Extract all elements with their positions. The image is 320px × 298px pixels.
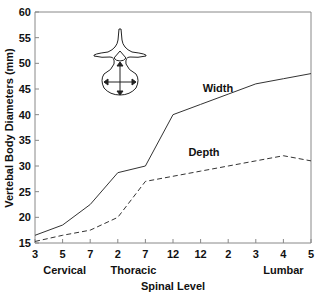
x-tick-label: 4 <box>280 248 287 260</box>
x-tick-label: 5 <box>60 248 66 260</box>
x-axis-title: Spinal Level <box>141 280 205 292</box>
x-tick-label: 12 <box>194 248 206 260</box>
x-tick-label: 3 <box>32 248 38 260</box>
depth-line <box>35 156 311 242</box>
region-label: Cervical <box>43 264 86 276</box>
plot-frame <box>35 12 311 243</box>
x-tick-label: 12 <box>167 248 179 260</box>
x-tick-label: 7 <box>87 248 93 260</box>
region-label: Lumbar <box>263 264 304 276</box>
y-tick-label: 40 <box>19 109 31 121</box>
x-tick-label: 7 <box>142 248 148 260</box>
y-axis-ticks: 15202530354045505560 <box>19 6 39 249</box>
x-tick-label: 2 <box>225 248 231 260</box>
y-axis-title: Vertebal Body Diameters (mm) <box>3 48 15 208</box>
vertebra-icon <box>94 29 146 95</box>
series-lines <box>35 74 311 242</box>
y-tick-label: 35 <box>19 134 31 146</box>
chart: 15202530354045505560 3572712122345 Cervi… <box>0 0 320 298</box>
x-axis-ticks: 3572712122345 <box>32 239 314 260</box>
depth-series-label: Depth <box>188 146 219 158</box>
y-tick-label: 55 <box>19 32 31 44</box>
width-series-label: Width <box>203 82 234 94</box>
y-tick-label: 25 <box>19 186 31 198</box>
x-tick-label: 3 <box>253 248 259 260</box>
y-tick-label: 60 <box>19 6 31 18</box>
y-tick-label: 45 <box>19 83 31 95</box>
x-tick-label: 2 <box>115 248 121 260</box>
x-tick-label: 5 <box>308 248 314 260</box>
y-tick-label: 30 <box>19 160 31 172</box>
width-line <box>35 74 311 236</box>
y-tick-label: 15 <box>19 237 31 249</box>
y-tick-label: 20 <box>19 211 31 223</box>
region-label: Thoracic <box>110 264 156 276</box>
region-labels: CervicalThoracicLumbar <box>43 264 304 276</box>
y-tick-label: 50 <box>19 57 31 69</box>
